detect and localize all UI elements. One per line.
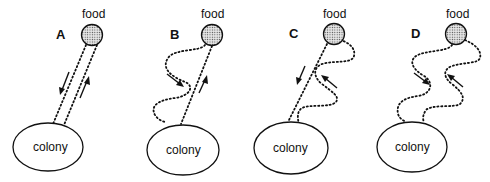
- food-source-a: [82, 25, 103, 46]
- panel-label-a: A: [56, 27, 66, 42]
- panel-a: A food colony: [13, 7, 105, 171]
- path-winding-c: [298, 40, 354, 124]
- food-label-c: food: [323, 7, 346, 21]
- arrow-down-icon: [296, 66, 305, 85]
- arrow-up-icon: [80, 76, 90, 98]
- food-label-d: food: [446, 7, 469, 21]
- ant-foraging-diagram: A food colony B food colony: [0, 0, 490, 182]
- food-source-c: [324, 24, 345, 45]
- arrow-up-icon: [199, 75, 208, 93]
- path-winding-return-d: [423, 40, 480, 122]
- panel-b: B food colony: [147, 7, 224, 175]
- diagram-canvas: A food colony B food colony: [0, 0, 490, 182]
- path-straight-b: [181, 46, 212, 124]
- colony-label-c: colony: [273, 141, 308, 155]
- food-label-b: food: [201, 7, 224, 21]
- food-label-a: food: [82, 7, 105, 21]
- panel-label-d: D: [411, 26, 420, 41]
- arrow-up-left-icon: [447, 74, 463, 87]
- panel-c: C food colony: [254, 7, 354, 174]
- colony-label-a: colony: [33, 140, 68, 154]
- food-source-d: [446, 24, 467, 45]
- path-straight-c: [288, 44, 327, 122]
- panel-label-b: B: [170, 27, 179, 42]
- colony-label-b: colony: [166, 143, 201, 157]
- food-source-b: [202, 25, 223, 46]
- panel-d: D food colony: [377, 7, 480, 172]
- colony-label-d: colony: [395, 140, 430, 154]
- panel-label-c: C: [289, 26, 299, 41]
